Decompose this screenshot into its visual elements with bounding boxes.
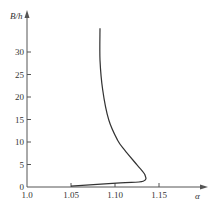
y-tick-label: 15 (15, 115, 25, 125)
x-axis-arrow-icon (200, 185, 208, 190)
y-axis-label: B/h (10, 11, 23, 21)
chart: 1.01.051.101.15051015202530 B/h α (0, 0, 215, 210)
x-tick-label: 1.10 (107, 190, 123, 200)
y-axis-arrow-icon (25, 10, 30, 18)
data-curve (71, 28, 146, 186)
axes (25, 10, 209, 190)
y-tick-label: 5 (20, 160, 25, 170)
y-tick-label: 10 (15, 137, 25, 147)
y-tick-label: 0 (20, 182, 25, 192)
x-axis-label: α (195, 191, 200, 201)
y-tick-label: 30 (15, 47, 25, 57)
ticks: 1.01.051.101.15051015202530 (15, 47, 167, 200)
x-tick-label: 1.05 (63, 190, 79, 200)
y-tick-label: 20 (15, 92, 25, 102)
y-tick-label: 25 (15, 70, 25, 80)
x-tick-label: 1.15 (151, 190, 167, 200)
